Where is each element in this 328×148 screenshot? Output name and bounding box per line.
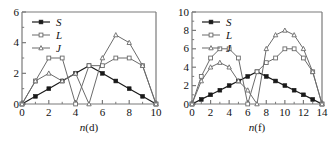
data-series-L (190, 47, 324, 106)
chart-panel-f: 024681002468101214n(f)SLJ (164, 0, 328, 148)
x-tick-label: 10 (279, 106, 291, 118)
y-tick-label: 6 (14, 6, 20, 18)
legend-label-L: L (225, 29, 232, 41)
y-axis-ticks: 0246 (14, 6, 27, 110)
x-tick-label: 8 (126, 106, 132, 118)
chart-panel-d: 02460246810n(d)SLJ (0, 0, 164, 148)
legend-entry-L: L (202, 29, 232, 41)
x-axis-ticks: 02468101214 (189, 100, 328, 118)
legend-label-J: J (56, 42, 62, 54)
legend-entry-S: S (202, 16, 232, 28)
x-tick-label: 0 (19, 106, 25, 118)
x-tick-label: 4 (73, 106, 79, 118)
legend-entry-L: L (32, 29, 62, 41)
legend-label-S: S (56, 16, 62, 28)
figure-two-panel-line-charts: 02460246810n(d)SLJ 024681002468101214n(f… (0, 0, 328, 148)
line-chart-n-f: 024681002468101214n(f)SLJ (164, 0, 328, 148)
y-tick-label: 2 (184, 79, 190, 91)
x-tick-label: 2 (46, 106, 52, 118)
plot-frame (22, 12, 156, 104)
y-axis-ticks: 0246810 (178, 6, 196, 110)
legend-label-S: S (226, 16, 232, 28)
x-tick-label: 0 (189, 106, 195, 118)
x-tick-label: 6 (245, 106, 251, 118)
data-series-S (20, 64, 158, 106)
data-series-J (20, 33, 158, 106)
y-tick-label: 6 (184, 42, 190, 54)
legend: SLJ (32, 16, 62, 54)
data-series-L (20, 56, 158, 106)
x-tick-label: 8 (264, 106, 270, 118)
x-tick-label: 6 (100, 106, 106, 118)
legend-entry-J: J (32, 42, 62, 54)
x-axis-title: n(f) (249, 121, 266, 134)
y-tick-label: 2 (14, 67, 20, 79)
x-axis-title: n(d) (80, 121, 99, 134)
x-tick-label: 2 (208, 106, 214, 118)
legend-entry-S: S (32, 16, 62, 28)
x-tick-label: 10 (151, 106, 163, 118)
y-tick-label: 4 (14, 36, 20, 48)
legend-label-L: L (55, 29, 62, 41)
y-tick-label: 10 (178, 6, 190, 18)
x-tick-label: 4 (226, 106, 232, 118)
x-tick-label: 12 (298, 106, 309, 118)
x-tick-label: 14 (317, 106, 328, 118)
y-tick-label: 4 (184, 61, 190, 73)
x-axis-ticks: 0246810 (19, 100, 162, 118)
line-chart-n-d: 02460246810n(d)SLJ (0, 0, 164, 148)
y-tick-label: 8 (184, 24, 190, 36)
legend: SLJ (202, 16, 232, 54)
